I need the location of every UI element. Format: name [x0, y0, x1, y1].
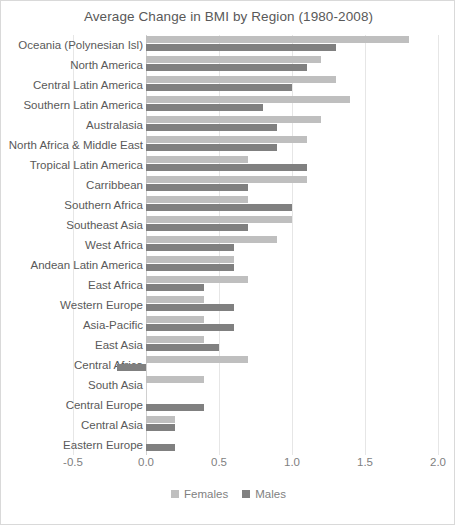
x-axis-tick-labels: -0.50.00.51.01.52.0 — [1, 456, 455, 476]
bar-males[interactable] — [146, 204, 292, 211]
bar-females[interactable] — [146, 56, 321, 63]
bar-females[interactable] — [146, 276, 248, 283]
chart-row: Carribbean — [1, 175, 455, 195]
chart-row: Southern Africa — [1, 195, 455, 215]
bar-females[interactable] — [146, 76, 336, 83]
bar-females[interactable] — [146, 136, 307, 143]
bar-males[interactable] — [146, 224, 248, 231]
category-label: Carribbean — [86, 179, 143, 191]
bar-males[interactable] — [146, 104, 263, 111]
bar-females[interactable] — [146, 196, 248, 203]
chart-row: Central Europe — [1, 395, 455, 415]
bar-males[interactable] — [146, 444, 175, 451]
bar-rows: Oceania (Polynesian Isl)North AmericaCen… — [1, 35, 455, 455]
legend-swatch-icon — [171, 490, 179, 498]
bar-males[interactable] — [146, 344, 219, 351]
chart-row: Andean Latin America — [1, 255, 455, 275]
chart-row: Tropical Latin America — [1, 155, 455, 175]
chart-row: North Africa & Middle East — [1, 135, 455, 155]
chart-row: Southern Latin America — [1, 95, 455, 115]
bar-females[interactable] — [146, 356, 248, 363]
bar-males[interactable] — [117, 364, 146, 371]
bar-males[interactable] — [146, 184, 248, 191]
plot-area: Oceania (Polynesian Isl)North AmericaCen… — [1, 35, 455, 455]
category-label: Andean Latin America — [30, 259, 143, 271]
bar-males[interactable] — [146, 244, 234, 251]
chart-row: Oceania (Polynesian Isl) — [1, 35, 455, 55]
bmi-bar-chart: Average Change in BMI by Region (1980-20… — [0, 0, 455, 525]
bar-females[interactable] — [146, 296, 204, 303]
bar-males[interactable] — [146, 404, 204, 411]
bar-males[interactable] — [146, 264, 234, 271]
bar-females[interactable] — [146, 36, 409, 43]
chart-row: East Africa — [1, 275, 455, 295]
x-tick-label: 1.0 — [284, 456, 300, 468]
category-label: Tropical Latin America — [30, 159, 143, 171]
category-label: Central Europe — [66, 399, 143, 411]
category-label: Southern Africa — [64, 199, 143, 211]
bar-females[interactable] — [146, 336, 204, 343]
x-tick-label: 0.0 — [138, 456, 154, 468]
bar-males[interactable] — [146, 284, 204, 291]
chart-legend: FemalesMales — [1, 488, 455, 500]
legend-swatch-icon — [242, 490, 250, 498]
chart-row: Southeast Asia — [1, 215, 455, 235]
bar-males[interactable] — [146, 84, 292, 91]
legend-item-females[interactable]: Females — [171, 488, 228, 500]
x-tick-label: 0.5 — [211, 456, 227, 468]
bar-females[interactable] — [146, 176, 307, 183]
category-label: Eastern Europe — [63, 439, 143, 451]
category-label: East Asia — [95, 339, 143, 351]
bar-females[interactable] — [146, 316, 204, 323]
bar-females[interactable] — [146, 156, 248, 163]
bar-males[interactable] — [146, 304, 234, 311]
legend-label: Females — [184, 488, 228, 500]
chart-row: Central Africa — [1, 355, 455, 375]
chart-row: East Asia — [1, 335, 455, 355]
category-label: North America — [70, 59, 143, 71]
legend-item-males[interactable]: Males — [242, 488, 286, 500]
category-label: South Asia — [88, 379, 143, 391]
chart-row: Asia-Pacific — [1, 315, 455, 335]
legend-label: Males — [255, 488, 286, 500]
bar-males[interactable] — [146, 64, 307, 71]
bar-males[interactable] — [146, 424, 175, 431]
chart-row: Central Latin America — [1, 75, 455, 95]
bar-males[interactable] — [146, 44, 336, 51]
category-label: Southeast Asia — [66, 219, 143, 231]
category-label: Central Asia — [81, 419, 143, 431]
chart-row: West Africa — [1, 235, 455, 255]
category-label: Australasia — [86, 119, 143, 131]
category-label: Central Latin America — [33, 79, 143, 91]
category-label: Oceania (Polynesian Isl) — [18, 39, 143, 51]
chart-row: Eastern Europe — [1, 435, 455, 455]
chart-row: South Asia — [1, 375, 455, 395]
chart-title: Average Change in BMI by Region (1980-20… — [1, 9, 455, 24]
bar-males[interactable] — [146, 164, 307, 171]
bar-males[interactable] — [146, 324, 234, 331]
bar-females[interactable] — [146, 96, 350, 103]
category-label: North Africa & Middle East — [9, 139, 143, 151]
bar-females[interactable] — [146, 376, 204, 383]
chart-row: Central Asia — [1, 415, 455, 435]
chart-row: Western Europe — [1, 295, 455, 315]
category-label: Southern Latin America — [23, 99, 143, 111]
x-tick-label: 1.5 — [357, 456, 373, 468]
x-tick-label: 2.0 — [430, 456, 446, 468]
category-label: East Africa — [88, 279, 143, 291]
x-tick-label: -0.5 — [63, 456, 83, 468]
category-label: Asia-Pacific — [83, 319, 143, 331]
bar-males[interactable] — [146, 144, 277, 151]
chart-row: North America — [1, 55, 455, 75]
chart-row: Australasia — [1, 115, 455, 135]
category-label: West Africa — [85, 239, 143, 251]
bar-females[interactable] — [146, 236, 277, 243]
bar-males[interactable] — [146, 124, 277, 131]
bar-females[interactable] — [146, 416, 175, 423]
category-label: Western Europe — [60, 299, 143, 311]
bar-females[interactable] — [146, 256, 234, 263]
bar-females[interactable] — [146, 116, 321, 123]
bar-females[interactable] — [146, 216, 292, 223]
